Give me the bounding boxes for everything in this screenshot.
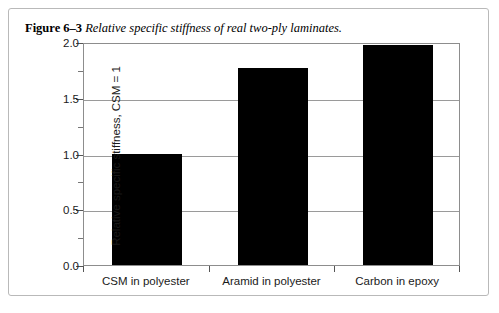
x-axis-ticks [83,266,460,273]
bar [112,154,182,266]
x-tick-label: CSM in polyester [83,275,209,288]
bar-chart: Relative specific stiffness, CSM = 1 0.0… [0,0,499,313]
y-axis-tick-labels: 0.00.51.01.52.0 [49,43,79,266]
plot-area: Relative specific stiffness, CSM = 1 [83,43,460,266]
y-tick-label: 1.0 [53,150,79,161]
x-tick [209,266,210,272]
y-axis-ticks [83,43,84,266]
x-axis-tick-labels: CSM in polyesterAramid in polyesterCarbo… [83,275,460,291]
x-tick [334,266,335,272]
x-tick-label: Carbon in epoxy [334,275,460,288]
x-tick [83,266,84,272]
y-tick-label: 0.0 [53,261,79,272]
x-tick [459,266,460,272]
x-tick-label: Aramid in polyester [209,275,335,288]
y-tick-label: 0.5 [53,205,79,216]
bar [238,68,308,265]
bar [363,45,433,265]
y-tick-label: 2.0 [53,38,79,49]
y-axis-title: Relative specific stiffness, CSM = 1 [110,56,122,256]
y-tick-label: 1.5 [53,94,79,105]
